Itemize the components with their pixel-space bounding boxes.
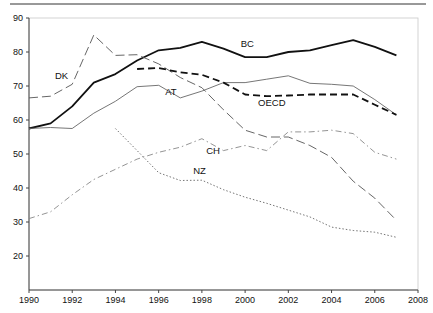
plot-frame [29,18,418,290]
series-line-nz [115,129,396,238]
series-group [29,35,396,237]
x-tick-label: 2002 [278,295,298,305]
y-tick-label: 30 [13,217,23,227]
series-line-dk [29,35,396,220]
series-line-bc [29,40,396,128]
y-tick-label: 60 [13,115,23,125]
x-tick-label: 1998 [192,295,212,305]
x-tick-label: 2000 [235,295,255,305]
line-chart: 2030405060708090199019921994199619982000… [0,0,433,313]
series-line-at [29,76,396,129]
y-tick-label: 20 [13,251,23,261]
x-tick-label: 1996 [149,295,169,305]
series-labels: BCDKATOECDCHNZ [55,38,286,177]
series-label-dk: DK [55,70,69,81]
axes: 2030405060708090199019921994199619982000… [13,13,428,305]
y-tick-label: 50 [13,149,23,159]
x-tick-label: 2004 [322,295,342,305]
x-tick-label: 2006 [365,295,385,305]
y-tick-label: 40 [13,183,23,193]
series-label-ch: CH [206,145,220,156]
series-label-at: AT [165,86,177,97]
series-line-ch [29,130,396,218]
x-tick-label: 1992 [62,295,82,305]
series-label-oecd: OECD [258,97,286,108]
x-tick-label: 1994 [105,295,125,305]
y-tick-label: 90 [13,13,23,23]
x-tick-label: 2008 [408,295,428,305]
x-tick-label: 1990 [19,295,39,305]
y-tick-label: 70 [13,81,23,91]
y-tick-label: 80 [13,47,23,57]
series-label-nz: NZ [193,165,206,176]
series-label-bc: BC [241,38,254,49]
